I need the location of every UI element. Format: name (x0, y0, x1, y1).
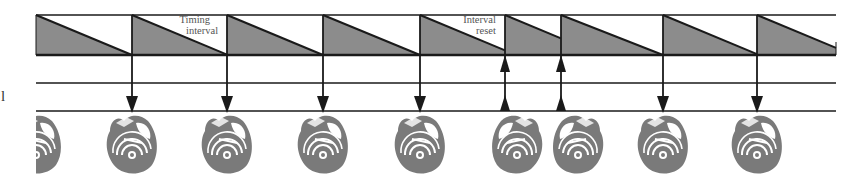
up-arrow-icon (556, 95, 566, 111)
heart-icon (395, 116, 445, 174)
heart-icon (638, 116, 688, 174)
heart-icon (107, 116, 157, 174)
up-arrow-icon (500, 55, 510, 72)
heart-icon (492, 116, 542, 174)
up-arrow-icon (556, 55, 566, 72)
timing-chart (0, 0, 858, 196)
pacemaker-timing-diagram: Timing interval Interval reset l (0, 0, 858, 196)
up-arrow-icon (500, 95, 510, 111)
heart-icon (11, 116, 61, 174)
heart-icon (732, 116, 782, 174)
left-cut-label: l (1, 88, 5, 105)
heart-icon (298, 116, 348, 174)
timing-interval-label: Timing interval (170, 14, 218, 36)
interval-reset-label: Interval reset (454, 14, 496, 36)
heart-icon (553, 116, 603, 174)
heart-icon (202, 116, 252, 174)
